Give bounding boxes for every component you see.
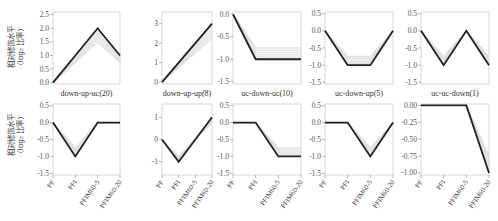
y-tick-label: -1.5: [217, 77, 229, 86]
y-tick-label: 0: [154, 78, 158, 87]
x-tick-label: PFIM60-20: [467, 178, 493, 210]
y-tick-label: 2.0: [40, 24, 50, 33]
panel-1-3: -1.5-1.0-0.50.0uc-down-uc(10): [217, 10, 301, 98]
y-tick-label: 1: [154, 113, 158, 122]
plot-frame: [325, 12, 393, 84]
x-tick-label: PFI: [339, 178, 352, 191]
y-tick-label: 0.0: [312, 118, 322, 127]
y-tick-label: -1.0: [309, 61, 321, 70]
y-tick-label: 2: [154, 39, 158, 48]
x-tick-label: PFIM60-20: [279, 178, 305, 210]
y-tick-label: -0.75: [401, 152, 417, 161]
y-axis-label-row1: 相对修饰水平 (log₂ 比率): [7, 7, 25, 87]
x-tick-label: PF: [46, 178, 57, 189]
y-tick-label: -1.0: [405, 61, 417, 70]
x-tick-label: PFIM60-5: [447, 178, 471, 207]
y-tick-label: -1.5: [405, 78, 417, 87]
y-tick-label: -0.5: [217, 32, 229, 41]
panel-1-1: 0.00.51.01.52.02.5down-up-uc(20): [40, 10, 120, 98]
y-tick-label: 0.0: [220, 10, 230, 19]
y-tick-label: -1: [152, 157, 158, 166]
panel-title: uc-down-uc(10): [241, 89, 293, 98]
y-tick-label: 0.5: [40, 101, 50, 110]
y-tick-label: -1.5: [309, 169, 321, 178]
x-tick-label: PFIM60-20: [98, 178, 124, 210]
panel-2-2: -101PFPFIPFIM60-5PFIM60-20: [152, 104, 216, 210]
x-tick-label: PFIM60-5: [351, 178, 375, 207]
y-axis-label-line2: (log₂ 比率): [16, 7, 25, 87]
x-tick-label: PF: [155, 178, 166, 189]
x-tick-label: PF: [414, 178, 425, 189]
y-tick-label: 0.5: [312, 101, 322, 110]
y-axis-label-line1: 相对修饰水平: [7, 95, 16, 175]
y-tick-label: 1.5: [40, 37, 50, 46]
x-tick-label: PFIM60-5: [78, 178, 102, 207]
panel-1-2: 0123down-up-up(8): [154, 12, 212, 98]
panel-title: down-up-up(8): [163, 89, 212, 98]
x-tick-label: PFIM60-20: [371, 178, 397, 210]
y-tick-label: -1.5: [37, 169, 49, 178]
y-tick-label: 2.5: [40, 10, 50, 19]
panel-2-3: -1.5-1.0-0.50.00.5PFPFIPFIM60-5PFIM60-20: [217, 101, 305, 210]
y-tick-label: 0.5: [408, 9, 418, 18]
y-tick-label: 3: [154, 19, 158, 28]
y-tick-label: -0.25: [401, 118, 417, 127]
y-tick-label: 0.0: [40, 118, 50, 127]
y-tick-label: -1.0: [309, 152, 321, 161]
y-tick-label: -1.0: [37, 152, 49, 161]
y-tick-label: 0.0: [408, 26, 418, 35]
y-axis-label-line1: 相对修饰水平: [7, 7, 16, 87]
chart-grid: 0.00.51.01.52.02.5down-up-uc(20)0123down…: [0, 0, 498, 221]
y-tick-label: 1.0: [40, 51, 50, 60]
y-tick-label: -0.5: [309, 135, 321, 144]
y-tick-label: -1.00: [401, 168, 417, 177]
panel-2-5: -1.00-0.75-0.50-0.250.00PFPFIPFIM60-5PFI…: [401, 101, 493, 210]
panel-title: down-up-uc(20): [61, 89, 113, 98]
y-tick-label: 0.0: [220, 118, 230, 127]
y-tick-label: 0.5: [40, 65, 50, 74]
y-tick-label: -1.5: [217, 169, 229, 178]
y-tick-label: -1.5: [309, 78, 321, 87]
x-tick-label: PFI: [170, 178, 183, 191]
y-tick-label: -0.50: [401, 135, 417, 144]
x-tick-label: PFI: [67, 178, 80, 191]
x-tick-label: PFI: [435, 178, 448, 191]
y-axis-label-row2: 相对修饰水平 (log₂ 比率): [7, 95, 25, 175]
y-tick-label: -1.0: [217, 152, 229, 161]
y-tick-label: -0.5: [217, 135, 229, 144]
x-tick-label: PFI: [247, 178, 260, 191]
panel-title: uc-uc-down(1): [431, 89, 479, 98]
y-tick-label: -0.5: [37, 135, 49, 144]
y-tick-label: -0.5: [309, 44, 321, 53]
x-tick-label: PF: [318, 178, 329, 189]
panel-title: uc-down-up(5): [335, 89, 383, 98]
x-tick-label: PFIM60-5: [259, 178, 283, 207]
panel-2-1: -1.5-1.0-0.50.00.5PFPFIPFIM60-5PFIM60-20: [37, 101, 124, 210]
y-tick-label: 0.0: [312, 26, 322, 35]
y-tick-label: 0.5: [220, 101, 230, 110]
y-tick-label: -1.0: [217, 55, 229, 64]
y-tick-label: 0: [154, 135, 158, 144]
x-tick-label: PF: [226, 178, 237, 189]
y-tick-label: 1: [154, 58, 158, 67]
y-tick-label: -0.5: [405, 44, 417, 53]
y-axis-label-line2: (log₂ 比率): [16, 95, 25, 175]
y-tick-label: 0.0: [40, 78, 50, 87]
y-tick-label: 0.00: [404, 101, 417, 110]
panel-1-4: -1.5-1.0-0.50.00.5uc-down-up(5): [309, 9, 393, 98]
plot-frame: [162, 104, 212, 175]
panel-2-4: -1.5-1.0-0.50.00.5PFPFIPFIM60-5PFIM60-20: [309, 101, 397, 210]
panel-1-5: -1.5-1.0-0.50.00.5uc-uc-down(1): [405, 9, 489, 98]
y-tick-label: 0.5: [312, 9, 322, 18]
